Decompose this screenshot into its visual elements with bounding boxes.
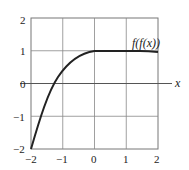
x-tick-neg2: −2 (25, 153, 37, 165)
y-tick-neg1: −1 (13, 111, 25, 123)
x-tick-1: 1 (123, 153, 129, 165)
y-tick-0: 0 (20, 78, 26, 90)
y-tick-2: 2 (20, 14, 26, 26)
y-tick-1: 1 (20, 45, 26, 57)
x-tick-neg1: −1 (56, 153, 68, 165)
x-tick-2: 2 (154, 153, 160, 165)
x-axis-label: x (174, 76, 181, 90)
x-tick-0: 0 (91, 153, 97, 165)
curve-label: f(f(x)) (132, 36, 160, 50)
chart: 2 1 0 −1 −2 −2 −1 0 1 2 f(f(x)) x (0, 0, 189, 170)
y-tick-neg2: −2 (13, 143, 25, 155)
